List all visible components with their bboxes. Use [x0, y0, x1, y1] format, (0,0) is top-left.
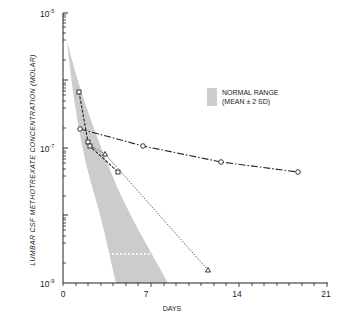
- legend-swatch: [207, 88, 217, 106]
- x-axis-title: DAYS: [163, 305, 182, 312]
- y-tick-bottom: 10-9: [40, 278, 54, 289]
- y-axis-title: LUMBAR CSF METHOTREXATE CONCENTRATION (M…: [29, 54, 37, 265]
- x-tick-7: 7: [144, 289, 149, 299]
- legend-line-2: (MEAN ± 2 SD): [222, 98, 270, 106]
- x-tick-0: 0: [61, 289, 66, 299]
- x-tick-21: 21: [321, 289, 331, 299]
- x-tick-14: 14: [232, 289, 242, 299]
- y-tick-mid: 10-7: [40, 143, 54, 154]
- legend-line-1: NORMAL RANGE: [222, 89, 279, 96]
- methotrexate-chart: 10-5 10-7 10-9 0 7 14 21 DAYS LUMBAR CSF…: [0, 0, 346, 327]
- y-axis: [63, 13, 68, 283]
- series-circles-markers: [78, 127, 301, 175]
- x-axis: [63, 283, 328, 287]
- normal-range-band: [67, 40, 168, 283]
- y-tick-top: 10-5: [40, 8, 54, 19]
- series-circles-line: [80, 129, 298, 172]
